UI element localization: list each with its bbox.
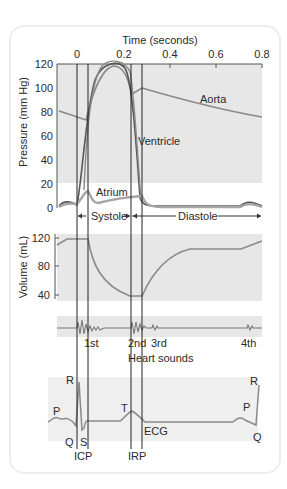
- svg-text:0.8: 0.8: [254, 48, 269, 60]
- svg-text:R: R: [66, 374, 74, 386]
- svg-text:120: 120: [35, 58, 53, 70]
- svg-text:0.4: 0.4: [162, 48, 177, 60]
- pressure-axis-label: Pressure (mm Hg): [17, 77, 29, 167]
- sound-4th: 4th: [241, 337, 256, 349]
- svg-text:40: 40: [38, 289, 50, 301]
- heart-sounds-title: Heart sounds: [128, 352, 194, 364]
- volume-axis-label: Volume (mL): [17, 236, 29, 298]
- svg-text:40: 40: [41, 154, 53, 166]
- ecg-label: ECG: [144, 425, 168, 437]
- wiggers-diagram: Time (seconds) 0 0.2 0.4 0.6 0.8 Pressur…: [0, 0, 287, 489]
- diastole-label: Diastole: [178, 210, 218, 222]
- systole-label: Systole: [91, 210, 127, 222]
- svg-text:100: 100: [35, 82, 53, 94]
- svg-text:80: 80: [41, 106, 53, 118]
- sound-3rd: 3rd: [151, 337, 167, 349]
- svg-text:P: P: [53, 405, 60, 417]
- irp-label: IRP: [128, 450, 146, 462]
- ventricle-label: Ventricle: [138, 135, 180, 147]
- svg-text:T: T: [121, 402, 128, 414]
- svg-text:P: P: [243, 401, 250, 413]
- svg-text:R: R: [250, 375, 258, 387]
- svg-text:Q: Q: [253, 431, 262, 443]
- svg-text:0.6: 0.6: [208, 48, 223, 60]
- svg-text:0.2: 0.2: [116, 48, 131, 60]
- svg-text:S: S: [80, 436, 87, 448]
- svg-text:0: 0: [74, 48, 80, 60]
- time-axis-title: Time (seconds): [122, 34, 197, 46]
- atrium-label: Atrium: [96, 186, 128, 198]
- svg-text:60: 60: [41, 130, 53, 142]
- svg-text:20: 20: [41, 178, 53, 190]
- svg-text:Q: Q: [65, 436, 74, 448]
- aorta-label: Aorta: [200, 93, 227, 105]
- sound-1st: 1st: [84, 337, 99, 349]
- svg-text:0: 0: [47, 202, 53, 214]
- icp-label: ICP: [74, 450, 92, 462]
- svg-text:120: 120: [32, 232, 50, 244]
- svg-text:80: 80: [38, 260, 50, 272]
